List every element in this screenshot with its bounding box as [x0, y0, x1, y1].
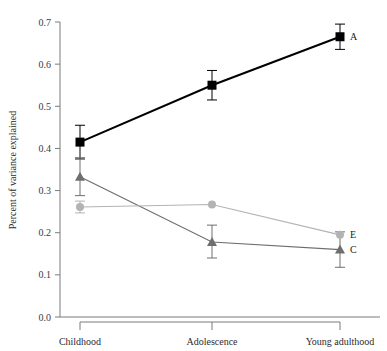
- series-c-label: C: [350, 244, 357, 255]
- y-tick-label: 0.6: [39, 59, 52, 70]
- y-tick-label: 0.2: [39, 227, 52, 238]
- y-tick-label: 0.1: [39, 269, 52, 280]
- x-category-label-young-adulthood: Young adulthood: [306, 336, 375, 347]
- series-a-marker: [336, 32, 345, 41]
- y-tick-label: 0.7: [39, 17, 52, 28]
- y-axis-title: Percent of variance explained: [7, 111, 18, 230]
- series-e-marker: [76, 203, 84, 211]
- series-e-marker: [208, 200, 216, 208]
- x-category-label-childhood: Childhood: [59, 336, 101, 347]
- y-tick-label: 0.5: [39, 101, 52, 112]
- series-a-marker: [76, 138, 85, 147]
- y-tick-label: 0.4: [39, 143, 52, 154]
- y-tick-label: 0.0: [39, 312, 52, 323]
- y-tick-label: 0.3: [39, 185, 52, 196]
- chart-svg: 0.00.10.20.30.40.50.60.7 ChildhoodAdoles…: [0, 0, 387, 351]
- variance-explained-chart: 0.00.10.20.30.40.50.60.7 ChildhoodAdoles…: [0, 0, 387, 351]
- chart-background: [0, 0, 387, 351]
- series-e-label: E: [350, 229, 356, 240]
- series-e-marker: [336, 231, 344, 239]
- x-category-label-adolescence: Adolescence: [186, 336, 238, 347]
- series-a-label: A: [350, 31, 358, 42]
- series-a-marker: [208, 81, 217, 90]
